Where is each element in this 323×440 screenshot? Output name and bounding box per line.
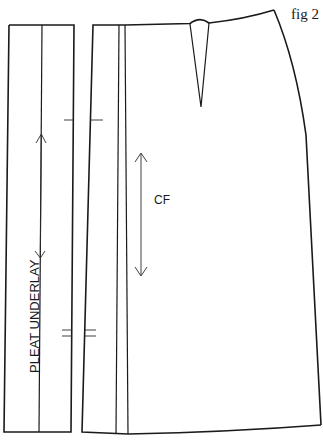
- front-skirt-piece: CF: [82, 10, 321, 434]
- pleat-fold-line: [116, 25, 119, 433]
- cf-label: CF: [154, 193, 170, 207]
- center-front-line: [125, 25, 128, 434]
- waist-dart: [190, 23, 209, 107]
- pleat-extension-outline: [82, 25, 128, 434]
- pleat-underlay-label: PLEAT UNDERLAY: [27, 259, 42, 373]
- pattern-diagram: PLEAT UNDERLAY CF fig 2: [0, 0, 323, 440]
- pleat-underlay-piece: PLEAT UNDERLAY: [4, 25, 74, 432]
- figure-label: fig 2: [291, 6, 319, 22]
- hemline: [128, 425, 321, 434]
- waistline: [125, 10, 274, 25]
- side-seam: [274, 10, 321, 425]
- grainline-arrow: [40, 135, 41, 257]
